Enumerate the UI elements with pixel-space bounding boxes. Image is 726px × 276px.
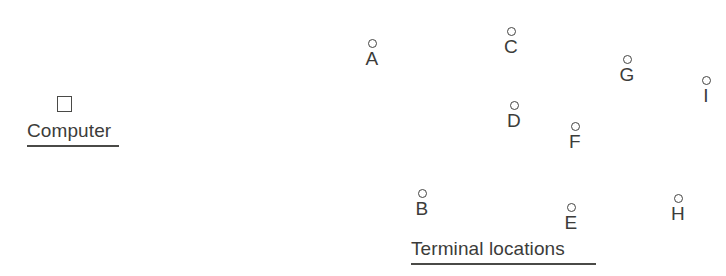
terminal-node-label: I <box>695 86 717 106</box>
terminal-node-label: E <box>560 213 582 233</box>
terminal-circle-icon <box>418 189 427 198</box>
terminal-node-label: B <box>411 199 433 219</box>
terminal-circle-icon <box>571 122 580 131</box>
terminal-circle-icon <box>507 27 516 36</box>
computer-caption-underline <box>27 145 119 147</box>
terminal-node-label: G <box>616 65 638 85</box>
computer-marker <box>57 96 72 112</box>
terminal-circle-icon <box>510 101 519 110</box>
terminal-locations-caption: Terminal locations <box>411 238 596 265</box>
computer-caption: Computer <box>27 120 119 147</box>
computer-caption-label: Computer <box>27 120 111 141</box>
terminal-circle-icon <box>623 55 632 64</box>
terminal-locations-caption-underline <box>411 263 596 265</box>
terminal-circle-icon <box>674 194 683 203</box>
terminal-locations-caption-label: Terminal locations <box>411 238 565 259</box>
terminal-circle-icon <box>368 39 377 48</box>
terminal-node-label: A <box>361 49 383 69</box>
terminal-node-label: C <box>500 37 522 57</box>
terminal-circle-icon <box>567 203 576 212</box>
terminal-node-label: F <box>564 132 586 152</box>
terminal-node-label: H <box>667 204 689 224</box>
terminal-circle-icon <box>702 76 711 85</box>
terminal-node-label: D <box>503 111 525 131</box>
terminal-location-diagram: Computer ABCDEFGHI Terminal locations <box>0 0 726 276</box>
